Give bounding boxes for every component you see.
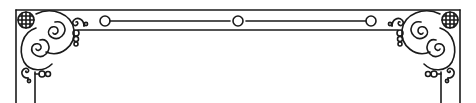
globe-medallion-icon [18,12,34,28]
bead-left-icon [100,16,110,26]
bead-right-icon [366,16,376,26]
bead-center-icon [233,16,243,26]
corner-flourish-top-right [388,11,458,83]
frame-svg [0,0,476,103]
globe-medallion-icon [442,12,458,28]
corner-flourish-top-left [18,11,88,83]
ornamental-frame [0,0,476,103]
